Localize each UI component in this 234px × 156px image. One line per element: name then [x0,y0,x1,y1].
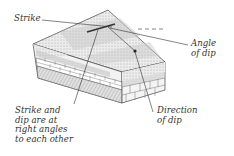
direction-of-dip-line-2: of dip [157,116,198,126]
strike-label: Strike [14,14,41,24]
angle-of-dip-line-2: of dip [191,49,216,59]
direction-of-dip-label: Direction of dip [157,106,198,125]
dip-arrow-head [133,49,136,52]
right-angles-label: Strike and dip are at right angles to ea… [15,106,73,144]
right-angles-line-4: to each other [15,135,73,145]
angle-of-dip-label: Angle of dip [191,39,216,58]
